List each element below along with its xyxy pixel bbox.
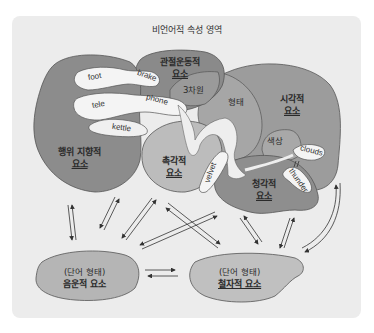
tactile-label: 촉각적 요소 [162,155,186,179]
diagram-title: 비언어적 속성 영역 [0,23,374,36]
action-label: 행위 지향적 요소 [58,146,101,170]
phonological-label: (단어 형태) 음운적 요소 [63,266,106,290]
auditory-label: 청각적 요소 [252,178,276,202]
semantic-network-diagram [0,0,374,333]
three-d-label: 3차원 [183,84,204,96]
color-label: 색상 [267,135,283,147]
articulatory-label: 관절운동적 요소 [160,56,200,80]
orthographic-label: (단어 형태) 철자적 요소 [218,266,261,290]
visual-label: 시각적 요소 [280,93,304,117]
shape-label: 형태 [228,96,244,108]
